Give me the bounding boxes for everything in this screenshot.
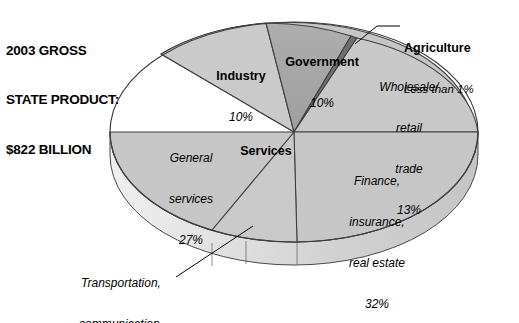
slice-label-finance-insurance-real-estate: Finance, insurance, real estate 32% xyxy=(322,148,432,323)
pie-chart-figure: 2003 GROSS STATE PRODUCT: $822 BILLION I… xyxy=(0,0,519,323)
title-line-2: STATE PRODUCT: xyxy=(6,92,119,108)
slice-label-transport-line-1: Transportation, xyxy=(46,277,196,291)
slice-label-finance-line-2: insurance, xyxy=(322,216,432,230)
slice-label-government: Government 10% xyxy=(272,26,372,139)
slice-label-general-line-2: services xyxy=(144,193,238,207)
group-label-services: Services xyxy=(226,144,306,158)
slice-label-general-line-1: General xyxy=(144,152,238,166)
slice-label-finance-line-3: real estate xyxy=(322,257,432,271)
title-line-3: $822 BILLION xyxy=(6,142,119,158)
title-line-1: 2003 GROSS xyxy=(6,43,119,59)
slice-label-transportation-communication-utilities: Transportation, communication, public ut… xyxy=(46,250,196,323)
page-title: 2003 GROSS STATE PRODUCT: $822 BILLION xyxy=(6,10,119,191)
slice-label-wholesale-line-2: retail xyxy=(366,122,452,136)
slice-label-agriculture-name: Agriculture xyxy=(404,41,516,55)
slice-label-transport-line-2: communication, xyxy=(46,318,196,323)
slice-label-finance-pct: 32% xyxy=(322,298,432,312)
slice-label-government-pct: 10% xyxy=(272,97,372,111)
slice-label-wholesale-line-1: Wholesale/ xyxy=(366,81,452,95)
slice-label-general-pct: 27% xyxy=(144,234,238,248)
slice-label-government-name: Government xyxy=(272,55,372,69)
slice-label-finance-line-1: Finance, xyxy=(322,175,432,189)
